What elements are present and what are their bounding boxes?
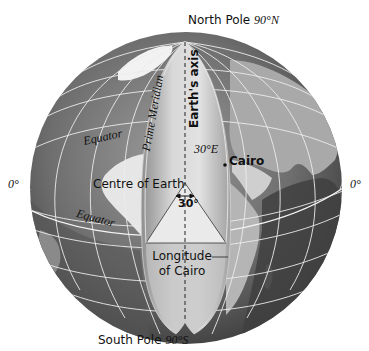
north-pole-text: North Pole bbox=[188, 13, 250, 27]
angle-label: 30° bbox=[178, 198, 199, 209]
meridian-30e-label: 30°E bbox=[194, 143, 218, 155]
globe-graphic bbox=[0, 0, 369, 351]
earths-axis-label: Earth's axis bbox=[188, 49, 200, 128]
south-pole-text: South Pole bbox=[98, 333, 162, 347]
left-zero-degree-label: 0° bbox=[8, 178, 19, 190]
cairo-dot bbox=[223, 163, 227, 167]
centre-of-earth-label: Centre of Earth bbox=[93, 178, 185, 190]
longitude-line2: of Cairo bbox=[152, 265, 212, 277]
longitude-of-cairo-label: Longitude of Cairo bbox=[152, 250, 212, 277]
longitude-line1: Longitude bbox=[152, 250, 212, 262]
right-zero-degree-label: 0° bbox=[350, 178, 361, 190]
north-pole-label: North Pole 90°N bbox=[188, 14, 279, 26]
south-pole-degree: 90°S bbox=[165, 333, 188, 347]
globe-diagram: North Pole 90°N South Pole 90°S Prime Me… bbox=[0, 0, 369, 351]
south-pole-label: South Pole 90°S bbox=[98, 334, 188, 346]
north-pole-degree: 90°N bbox=[254, 13, 279, 27]
cairo-label: Cairo bbox=[229, 155, 264, 167]
